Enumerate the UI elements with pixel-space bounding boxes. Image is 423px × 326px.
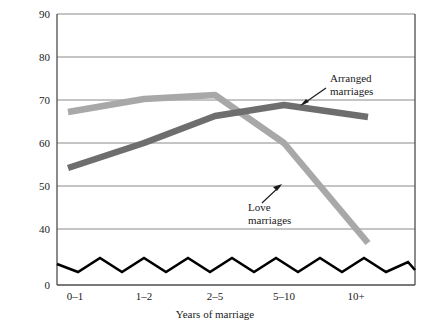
y-tick-label-40: 40 <box>39 223 51 235</box>
chart-page: 90 80 70 60 50 40 0 0–1 1–2 2–5 5–10 10+… <box>0 0 423 326</box>
annotation-arranged-line1: Arranged <box>330 72 372 84</box>
annotation-love-line2: marriages <box>248 214 291 226</box>
x-tick-label-5-10: 5–10 <box>273 290 296 302</box>
annotation-arranged-line2: marriages <box>330 85 373 97</box>
x-tick-label-0-1: 0–1 <box>67 290 84 302</box>
x-axis-title: Years of marriage <box>176 308 254 320</box>
x-tick-label-10plus: 10+ <box>347 290 364 302</box>
y-tick-label-90: 90 <box>39 8 51 20</box>
x-tick-label-2-5: 2–5 <box>207 290 224 302</box>
y-tick-label-80: 80 <box>39 51 51 63</box>
y-tick-label-70: 70 <box>39 94 51 106</box>
line-chart: 90 80 70 60 50 40 0 0–1 1–2 2–5 5–10 10+… <box>0 0 423 326</box>
y-tick-label-60: 60 <box>39 137 51 149</box>
y-tick-label-0: 0 <box>45 279 51 291</box>
plot-background <box>57 14 415 285</box>
y-tick-label-50: 50 <box>39 180 51 192</box>
x-tick-label-1-2: 1–2 <box>136 290 153 302</box>
annotation-love-line1: Love <box>248 201 271 213</box>
